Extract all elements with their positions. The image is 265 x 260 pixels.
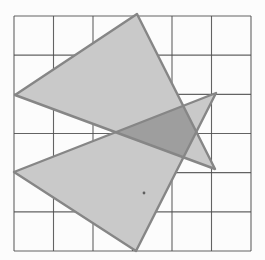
scanned-figure-page — [0, 0, 265, 260]
two-triangles-on-grid-figure — [0, 0, 265, 260]
ink-speck — [143, 192, 146, 195]
